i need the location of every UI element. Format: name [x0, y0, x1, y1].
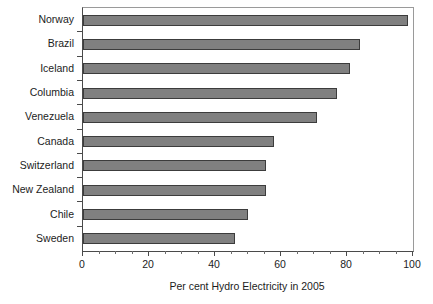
y-axis-tick — [77, 153, 82, 154]
y-axis-tick — [77, 201, 82, 202]
plot-area — [82, 7, 414, 252]
bar — [83, 88, 337, 99]
x-axis-tick-major — [412, 251, 413, 256]
bar — [83, 160, 266, 171]
x-axis-tick-major — [214, 251, 215, 256]
y-axis-tick — [77, 177, 82, 178]
x-axis-tick-minor — [181, 251, 182, 254]
bar — [83, 185, 266, 196]
category-label: Norway — [38, 13, 74, 25]
x-axis-tick-minor — [313, 251, 314, 254]
x-axis-tick-label: 60 — [274, 258, 286, 270]
x-axis-tick-minor — [231, 251, 232, 254]
x-axis-tick-major — [346, 251, 347, 256]
category-label: Brazil — [48, 37, 74, 49]
x-axis-tick-minor — [396, 251, 397, 254]
x-axis-tick-label: 80 — [340, 258, 352, 270]
category-label: Chile — [50, 208, 74, 220]
x-axis-tick-minor — [247, 251, 248, 254]
bar — [83, 136, 274, 147]
category-label: Venezuela — [25, 110, 74, 122]
x-axis-tick-minor — [165, 251, 166, 254]
category-label: Canada — [37, 135, 74, 147]
category-label: Switzerland — [20, 159, 74, 171]
bar — [83, 63, 350, 74]
y-axis-tick — [77, 104, 82, 105]
x-axis-tick-label: 0 — [79, 258, 85, 270]
x-axis-tick-label: 40 — [208, 258, 220, 270]
x-axis-tick-major — [148, 251, 149, 256]
category-label: Sweden — [36, 232, 74, 244]
x-axis-tick-minor — [264, 251, 265, 254]
x-axis-tick-label: 20 — [142, 258, 154, 270]
x-axis-tick-minor — [330, 251, 331, 254]
x-axis-tick-minor — [115, 251, 116, 254]
category-axis-labels: NorwayBrazilIcelandColumbiaVenezuelaCana… — [0, 7, 78, 250]
x-axis-title: Per cent Hydro Electricity in 2005 — [82, 280, 412, 292]
category-label: Columbia — [30, 86, 74, 98]
x-axis-tick-minor — [99, 251, 100, 254]
x-axis-tick-minor — [198, 251, 199, 254]
y-axis-tick — [77, 80, 82, 81]
y-axis-tick — [77, 226, 82, 227]
bar — [83, 15, 408, 26]
x-axis-tick-minor — [132, 251, 133, 254]
x-axis-tick-major — [280, 251, 281, 256]
category-label: New Zealand — [12, 183, 74, 195]
bar — [83, 112, 317, 123]
x-axis-tick-major — [82, 251, 83, 256]
bar — [83, 233, 235, 244]
category-label: Iceland — [40, 62, 74, 74]
x-axis-tick-minor — [379, 251, 380, 254]
bar — [83, 209, 248, 220]
x-axis-tick-label: 100 — [403, 258, 421, 270]
y-axis-tick — [77, 129, 82, 130]
x-axis-tick-minor — [363, 251, 364, 254]
y-axis-tick — [77, 31, 82, 32]
bar — [83, 39, 360, 50]
hydro-electricity-bar-chart: NorwayBrazilIcelandColumbiaVenezuelaCana… — [0, 0, 433, 304]
x-axis-tick-minor — [297, 251, 298, 254]
y-axis-tick — [77, 56, 82, 57]
